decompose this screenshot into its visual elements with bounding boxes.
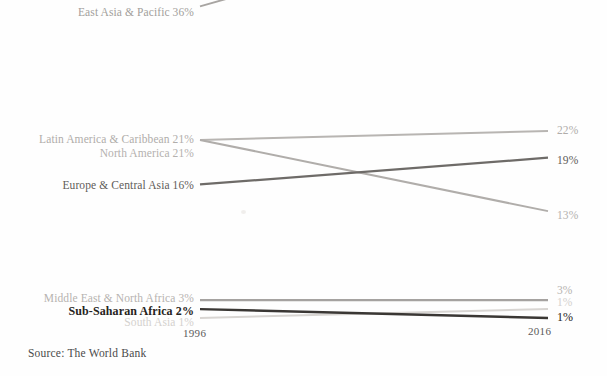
series-start-label: Latin America & Caribbean 21% <box>39 134 194 146</box>
series-start-label: Europe & Central Asia 16% <box>62 180 194 192</box>
paper-smudge <box>241 210 246 214</box>
x-axis-tick-1996: 1996 <box>183 327 206 339</box>
series-end-label: 22% <box>557 125 578 137</box>
source-note: Source: The World Bank <box>28 347 146 359</box>
series-end-label: 3% <box>557 285 573 297</box>
series-end-label: 1% <box>557 297 573 309</box>
slope-chart: East Asia & Pacific 36%Latin America & C… <box>0 0 607 376</box>
series-line <box>200 158 548 185</box>
series-line <box>200 0 548 6</box>
series-end-label: 13% <box>557 210 578 222</box>
series-start-label: Sub-Saharan Africa 2% <box>69 305 194 317</box>
series-line <box>200 140 548 211</box>
x-axis-tick-2016: 2016 <box>528 325 551 337</box>
series-line <box>200 131 548 140</box>
series-end-label: 1% <box>557 311 573 323</box>
series-start-label: East Asia & Pacific 36% <box>78 7 194 19</box>
series-end-label: 19% <box>557 155 578 167</box>
series-start-label: North America 21% <box>100 148 194 160</box>
